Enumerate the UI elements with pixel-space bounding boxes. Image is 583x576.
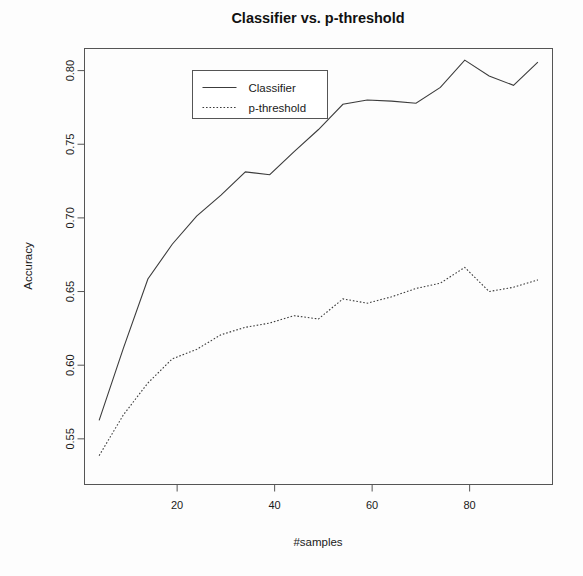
y-tick-label: 0.65 [64,281,76,302]
x-axis-ticks: 20406080 [171,485,476,511]
chart-title: Classifier vs. p-threshold [231,10,404,26]
x-tick-label: 40 [269,499,281,511]
x-tick-label: 60 [366,499,378,511]
x-tick-label: 80 [464,499,476,511]
chart-legend[interactable]: Classifierp-threshold [193,71,328,119]
legend-label-p-threshold: p-threshold [249,102,307,114]
chart-canvas: Classifier vs. p-threshold 0.550.600.650… [0,0,583,576]
x-tick-label: 20 [171,499,183,511]
y-tick-label: 0.80 [64,60,76,81]
x-axis-label: #samples [293,536,342,548]
y-axis-ticks: 0.550.600.650.700.750.80 [64,60,84,450]
y-tick-label: 0.75 [64,134,76,155]
y-tick-label: 0.70 [64,207,76,228]
data-series-group [99,60,538,455]
series-line-p-threshold [99,267,538,455]
y-axis-label: Accuracy [22,242,34,290]
chart-figure: Classifier vs. p-threshold 0.550.600.650… [0,0,583,576]
y-tick-label: 0.55 [64,428,76,449]
legend-label-classifier: Classifier [249,82,296,94]
y-tick-label: 0.60 [64,354,76,375]
